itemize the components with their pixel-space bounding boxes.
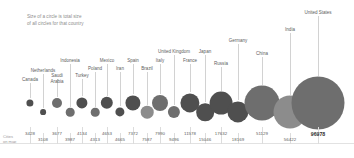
value-label: 3108 bbox=[38, 137, 48, 142]
value-label: 4665 bbox=[115, 137, 125, 142]
country-label: France bbox=[183, 58, 197, 64]
value-label: 4653 bbox=[102, 131, 112, 136]
bubble[interactable] bbox=[168, 106, 180, 118]
country-label: Japan bbox=[199, 49, 211, 55]
country-label: Germany bbox=[229, 38, 248, 44]
country-label: Italy bbox=[156, 58, 164, 64]
leader-line bbox=[120, 72, 121, 106]
bubble[interactable] bbox=[76, 97, 87, 108]
value-label: 4134 bbox=[77, 131, 87, 136]
chart-annotation: Size of a circle is total size of all ci… bbox=[27, 14, 84, 27]
leader-line bbox=[190, 64, 191, 92]
country-label: Canada bbox=[22, 77, 38, 83]
bubble[interactable] bbox=[292, 77, 345, 130]
leader-line bbox=[30, 83, 31, 98]
bubble[interactable] bbox=[26, 99, 33, 106]
country-label: United Kingdom bbox=[158, 49, 190, 55]
leader-line bbox=[262, 57, 263, 85]
value-label: 4313 bbox=[90, 137, 100, 142]
bubble[interactable] bbox=[152, 95, 168, 111]
leader-line bbox=[160, 64, 161, 94]
bubble[interactable] bbox=[141, 106, 154, 119]
leader-line bbox=[147, 72, 148, 105]
value-label: 3987 bbox=[65, 137, 75, 142]
leader-line bbox=[290, 33, 291, 95]
value-label: 7372 bbox=[128, 131, 138, 136]
country-label: Poland bbox=[88, 66, 102, 72]
value-label: 3677 bbox=[52, 131, 62, 136]
country-label: Mexico bbox=[100, 58, 114, 64]
bubble[interactable] bbox=[91, 108, 100, 117]
leader-line bbox=[70, 64, 71, 107]
bubble-chart-canvas: Size of a circle is total size of all ci… bbox=[0, 0, 354, 158]
bubble[interactable] bbox=[125, 95, 140, 110]
country-label: Iran bbox=[116, 66, 124, 72]
country-label: Turkey bbox=[75, 73, 89, 79]
value-label: 7990 bbox=[155, 131, 165, 136]
value-label: 17632 bbox=[215, 131, 227, 136]
value-label: 56422 bbox=[284, 137, 296, 142]
leader-line bbox=[107, 64, 108, 96]
country-label: Brazil bbox=[141, 66, 152, 72]
value-label: 96978 bbox=[311, 131, 325, 137]
leader-line bbox=[43, 74, 44, 108]
bubble[interactable] bbox=[101, 97, 113, 109]
bubble[interactable] bbox=[66, 108, 75, 117]
bubble[interactable] bbox=[40, 109, 46, 115]
bubble[interactable] bbox=[52, 98, 62, 108]
leader-line bbox=[174, 55, 175, 105]
value-label: 9496 bbox=[169, 137, 179, 142]
country-label: Spain bbox=[127, 58, 139, 64]
country-label: Saudi Arabia bbox=[50, 73, 63, 84]
country-label: China bbox=[256, 51, 268, 57]
leader-line bbox=[205, 55, 206, 102]
value-label: 3428 bbox=[25, 131, 35, 136]
value-label: 7587 bbox=[142, 137, 152, 142]
value-label: 51129 bbox=[256, 131, 268, 136]
axis-baseline bbox=[0, 143, 354, 144]
leader-line bbox=[318, 16, 319, 76]
value-label: 15046 bbox=[199, 137, 211, 142]
value-label: 18169 bbox=[232, 137, 244, 142]
leader-line bbox=[238, 44, 239, 100]
leader-line bbox=[133, 64, 134, 94]
country-label: United States bbox=[304, 10, 331, 16]
value-label: 11578 bbox=[184, 131, 196, 136]
country-label: Russia bbox=[214, 61, 228, 67]
leader-line bbox=[95, 72, 96, 107]
bubble[interactable] bbox=[115, 107, 124, 116]
country-label: Indonesia bbox=[60, 58, 80, 64]
country-label: India bbox=[285, 27, 295, 33]
leader-line bbox=[221, 67, 222, 91]
leader-line bbox=[82, 79, 83, 96]
